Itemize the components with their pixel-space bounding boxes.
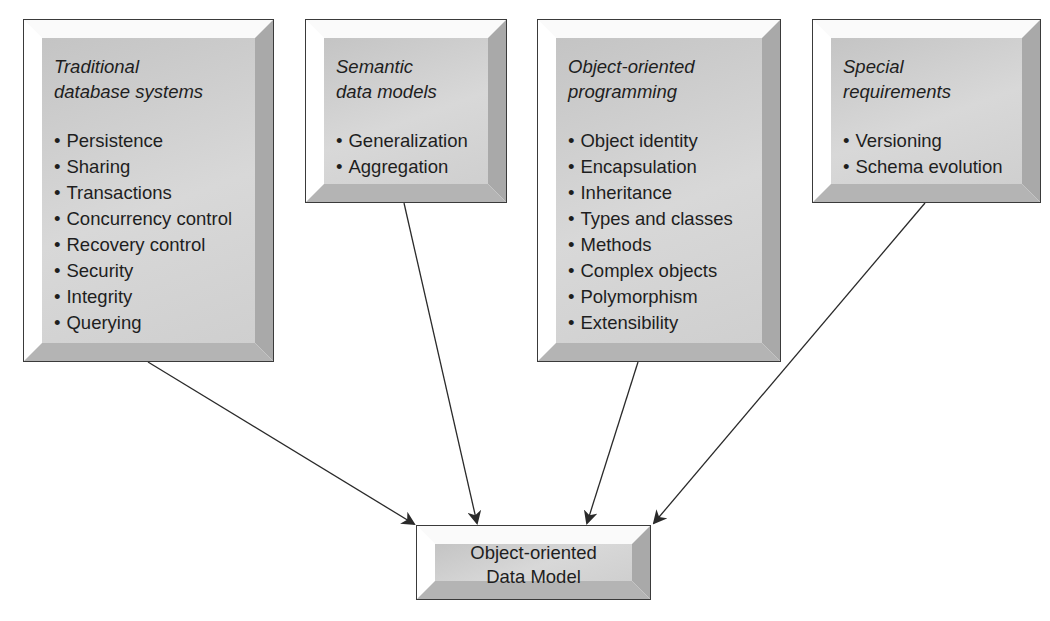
title-line: programming	[568, 79, 770, 104]
arrow-oop-to-model	[587, 362, 638, 523]
title-line: database systems	[54, 79, 263, 104]
arrow-traditional-to-model	[148, 362, 414, 524]
list-item: Transactions	[54, 180, 263, 206]
list-item: Types and classes	[568, 206, 770, 232]
title-line: Semantic	[336, 54, 496, 79]
box-title: Special requirements	[843, 54, 1030, 104]
list-item: Recovery control	[54, 232, 263, 258]
box-title: Semantic data models	[336, 54, 496, 104]
list-item: Security	[54, 258, 263, 284]
list-item: Methods	[568, 232, 770, 258]
list-item: Encapsulation	[568, 154, 770, 180]
list-item: Complex objects	[568, 258, 770, 284]
list-item: Sharing	[54, 154, 263, 180]
target-label: Object-oriented Data Model	[435, 541, 632, 589]
box-title: Traditional database systems	[54, 54, 263, 104]
object-oriented-data-model-box: Object-oriented Data Model	[416, 525, 651, 600]
list-item: Schema evolution	[843, 154, 1030, 180]
object-oriented-programming-box: Object-oriented programming Object ident…	[537, 19, 781, 362]
list-item: Integrity	[54, 284, 263, 310]
semantic-data-models-box: Semantic data models Generalization Aggr…	[305, 19, 507, 203]
list-item: Querying	[54, 310, 263, 336]
title-line: Traditional	[54, 54, 263, 79]
list-item: Inheritance	[568, 180, 770, 206]
list-item: Extensibility	[568, 310, 770, 336]
arrow-semantic-to-model	[404, 203, 477, 523]
list-item: Generalization	[336, 128, 496, 154]
list-item: Polymorphism	[568, 284, 770, 310]
special-requirements-box: Special requirements Versioning Schema e…	[812, 19, 1041, 203]
title-line: requirements	[843, 79, 1030, 104]
list-item: Versioning	[843, 128, 1030, 154]
list-item: Object identity	[568, 128, 770, 154]
traditional-database-systems-box: Traditional database systems Persistence…	[23, 19, 274, 362]
list-item: Aggregation	[336, 154, 496, 180]
feature-list: Generalization Aggregation	[336, 128, 496, 180]
title-line: Object-oriented	[568, 54, 770, 79]
list-item: Persistence	[54, 128, 263, 154]
label-line: Object-oriented	[435, 541, 632, 565]
list-item: Concurrency control	[54, 206, 263, 232]
label-line: Data Model	[435, 565, 632, 589]
feature-list: Object identity Encapsulation Inheritanc…	[568, 128, 770, 336]
feature-list: Versioning Schema evolution	[843, 128, 1030, 180]
title-line: data models	[336, 79, 496, 104]
box-title: Object-oriented programming	[568, 54, 770, 104]
feature-list: Persistence Sharing Transactions Concurr…	[54, 128, 263, 336]
title-line: Special	[843, 54, 1030, 79]
